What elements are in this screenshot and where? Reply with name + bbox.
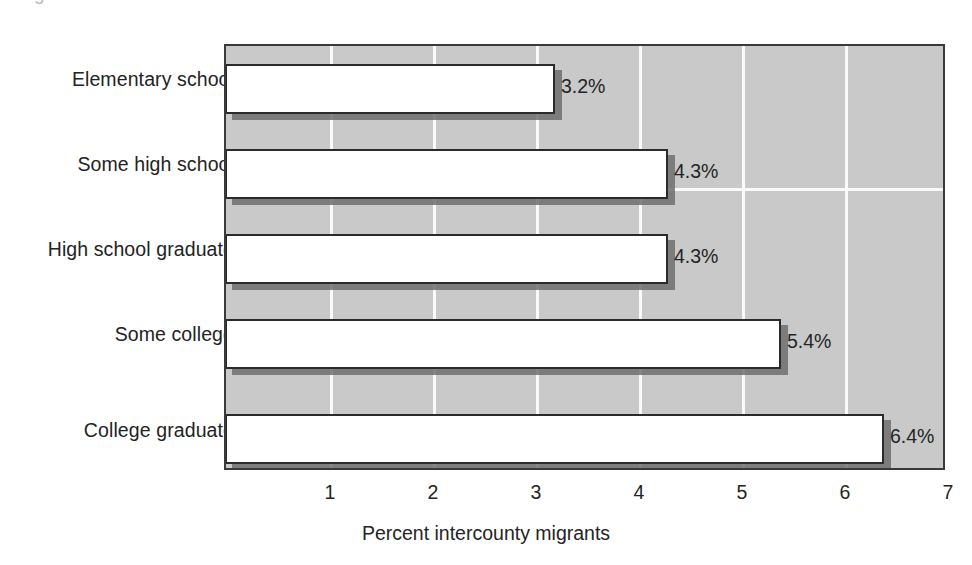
xtick-label-2: 2 (428, 481, 439, 503)
bar-chart-figure: Elementary school Some high school High … (0, 0, 972, 565)
value-label-high-school-graduate: 4.3% (674, 246, 718, 266)
bar-some-college (225, 319, 781, 369)
category-label-some-high-school: Some high school (77, 153, 234, 175)
value-label-some-high-school: 4.3% (674, 161, 718, 181)
xtick-label-5: 5 (737, 481, 748, 503)
gridline-vertical-5 (742, 46, 745, 468)
gridline-vertical-6 (845, 46, 848, 468)
value-label-elementary-school: 3.2% (561, 76, 605, 96)
category-label-some-college: Some college (115, 323, 234, 345)
category-label-high-school-graduate: High school graduate (48, 238, 234, 260)
bar-college-graduate (225, 414, 884, 464)
plot-area (224, 44, 945, 470)
x-axis-title: Percent intercounty migrants (0, 522, 972, 545)
xtick-label-3: 3 (531, 481, 542, 503)
bar-high-school-graduate (225, 234, 668, 284)
xtick-label-7: 7 (943, 481, 954, 503)
value-label-college-graduate: 6.4% (890, 426, 934, 446)
category-label-college-graduate: College graduate (84, 419, 234, 441)
value-label-some-college: 5.4% (787, 331, 831, 351)
category-label-elementary-school: Elementary school (72, 68, 234, 90)
bar-elementary-school (225, 64, 555, 114)
xtick-label-6: 6 (840, 481, 851, 503)
xtick-label-1: 1 (325, 481, 336, 503)
bar-some-high-school (225, 149, 668, 199)
xtick-label-4: 4 (634, 481, 645, 503)
